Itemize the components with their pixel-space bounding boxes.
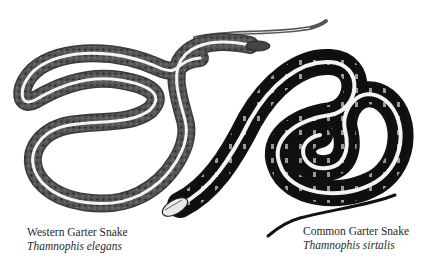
- common-name: Western Garter Snake: [27, 225, 128, 239]
- common-garter-snake-caption: Common Garter Snake Thamnophis sirtalis: [303, 224, 409, 252]
- scientific-name: Thamnophis elegans: [27, 239, 128, 253]
- common-garter-snake: [159, 62, 400, 236]
- western-garter-snake-caption: Western Garter Snake Thamnophis elegans: [27, 225, 128, 253]
- garter-snake-illustration: Western Garter Snake Thamnophis elegans …: [0, 0, 433, 261]
- snake-drawings: [0, 0, 433, 261]
- common-name: Common Garter Snake: [303, 224, 409, 238]
- scientific-name: Thamnophis sirtalis: [303, 238, 409, 252]
